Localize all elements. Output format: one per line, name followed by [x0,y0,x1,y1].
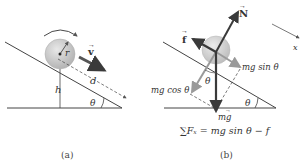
mg-cos-arrow [192,52,216,92]
x-axis-label: x [293,43,298,52]
dashed-line [190,94,216,109]
angle-arc [255,98,258,108]
friction-label: f [182,34,187,45]
angle-incline-label: θ [245,98,251,108]
mg-sin-label: mg sin θ [242,62,279,72]
normal-vector-mark: → [239,2,246,10]
caption-b: (b) [220,150,233,160]
velocity-arrow [79,57,104,70]
angle-label: θ [90,98,96,108]
x-axis-arrow [272,24,299,38]
weight-label: mg [218,112,232,122]
panel-a: h θ r v → d (a) [5,30,126,160]
panel-b: θ x θ N → f → mg sin θ mg cos θ mg → ∑Fₓ… [151,2,299,160]
caption-a: (a) [61,150,73,160]
mg-cos-label: mg cos θ [151,85,189,95]
rotation-arrow [44,30,77,36]
angle-force-label: θ [205,76,211,86]
weight-vector-mark: → [225,107,231,113]
friction-vector-mark: → [181,27,188,35]
height-label: h [55,84,61,95]
angle-arc [101,98,104,108]
equation: ∑Fₓ = mg sin θ − f [180,125,271,136]
velocity-vector-mark: → [88,41,95,49]
radius-label: r [65,48,70,58]
physics-diagram: h θ r v → d (a) θ x [0,0,308,165]
distance-label: d [90,75,96,86]
